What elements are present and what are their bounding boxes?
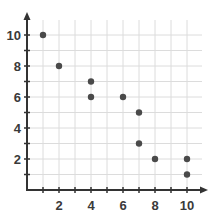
data-points [40,32,190,178]
grid-lines [27,20,202,190]
x-tick-label: 8 [151,198,158,213]
x-axis-arrow-icon [200,187,208,194]
data-point [136,140,142,146]
data-point [152,156,158,162]
y-axis-arrow-icon [24,12,31,20]
y-tick-label: 6 [14,90,21,105]
x-tick-label: 4 [87,198,95,213]
scatter-chart: 246810 246810 [0,0,216,219]
data-point [88,94,94,100]
data-point [136,109,142,115]
axes [24,12,209,194]
data-point [88,78,94,84]
data-point [56,63,62,69]
data-point [120,94,126,100]
y-tick-label: 8 [14,59,21,74]
data-point [40,32,46,38]
y-tick-label: 2 [14,152,21,167]
data-point [184,171,190,177]
x-tick-label: 6 [119,198,126,213]
x-tick-label: 2 [55,198,62,213]
y-tick-label: 4 [14,121,22,136]
data-point [184,156,190,162]
y-tick-label: 10 [7,28,21,43]
x-tick-label: 10 [180,198,194,213]
